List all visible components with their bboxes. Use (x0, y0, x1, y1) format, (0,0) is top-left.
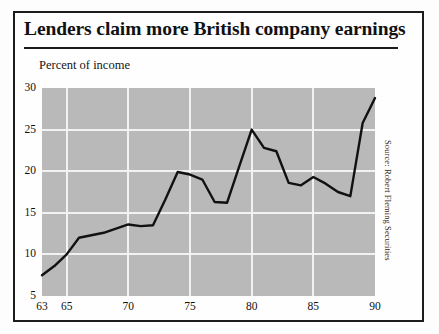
y-axis-tick-label: 30 (10, 81, 36, 93)
chart-title: Lenders claim more British company earni… (24, 18, 394, 40)
source-attribution: Source: Robert Fleming Securities (383, 140, 393, 261)
x-axis-tick-label: 65 (53, 300, 81, 312)
plot-area (42, 88, 375, 296)
x-axis-tick-label: 70 (114, 300, 142, 312)
y-axis-tick-label: 25 (10, 123, 36, 135)
chart-figure: Lenders claim more British company earni… (0, 0, 439, 334)
title-divider (24, 47, 398, 49)
y-axis-tick-label: 20 (10, 164, 36, 176)
x-axis-tick-label: 80 (238, 300, 266, 312)
series-polyline (42, 98, 375, 275)
x-axis-tick-label: 75 (176, 300, 204, 312)
x-axis-tick-label: 85 (299, 300, 327, 312)
y-axis-tick-label: 15 (10, 206, 36, 218)
y-axis-tick-label: 10 (10, 247, 36, 259)
x-axis-tick-label: 90 (361, 300, 389, 312)
data-series-line (42, 88, 375, 296)
y-axis-caption: Percent of income (39, 58, 130, 73)
